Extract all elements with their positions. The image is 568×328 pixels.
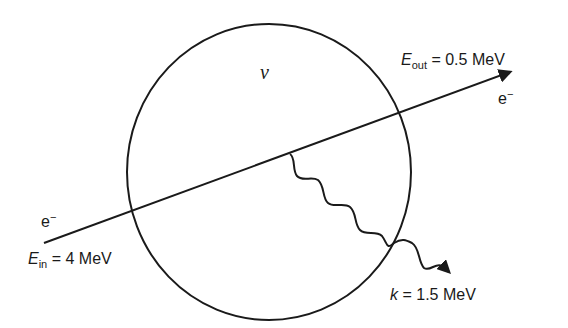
incoming-energy-value: = 4 MeV [52, 250, 112, 267]
outgoing-particle-sup: − [507, 88, 513, 100]
outgoing-particle-base: e [498, 90, 507, 107]
incoming-particle-base: e [41, 213, 50, 230]
photon-energy-value: = 1.5 MeV [402, 286, 475, 303]
electron-track-arrow [44, 72, 510, 243]
photon-energy-symbol: k [390, 286, 398, 303]
interaction-region-circle [127, 24, 411, 320]
diagram-canvas [0, 0, 568, 328]
incoming-energy-label: Ein = 4 MeV [28, 251, 112, 267]
incoming-energy-subscript: in [39, 258, 48, 270]
outgoing-electron-label: e− [498, 91, 513, 107]
region-label-nu: ν [260, 62, 269, 82]
photon-wavy-arrow [290, 154, 449, 272]
photon-energy-label: k = 1.5 MeV [390, 287, 476, 303]
incoming-electron-label: e− [41, 214, 56, 230]
outgoing-energy-subscript: out [412, 59, 427, 71]
incoming-energy-symbol: E [28, 250, 39, 267]
outgoing-energy-value: = 0.5 MeV [431, 51, 504, 68]
outgoing-energy-symbol: E [401, 51, 412, 68]
outgoing-energy-label: Eout = 0.5 MeV [401, 52, 505, 68]
incoming-particle-sup: − [50, 211, 56, 223]
